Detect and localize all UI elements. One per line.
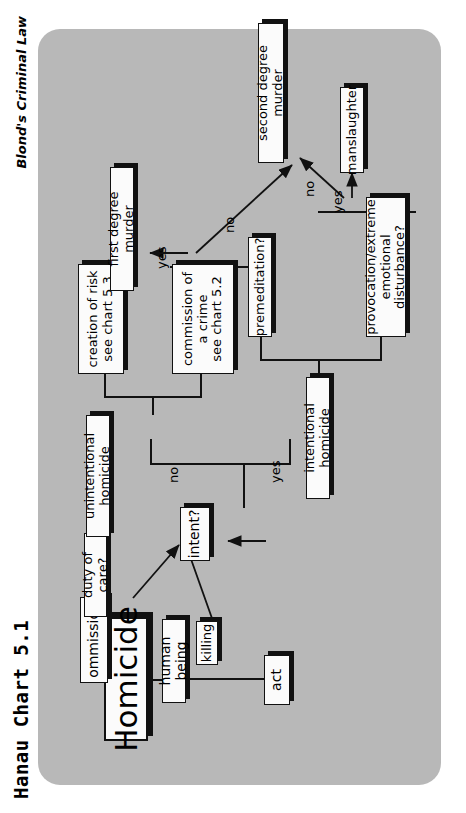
arrow-overlay [0,0,466,813]
node-act[interactable]: act [264,655,290,705]
edge-label-premed-no: no [222,217,237,233]
node-human-being[interactable]: human being [162,619,186,703]
commission-line3: see chart 5.2 [210,276,225,362]
commission-line1: commission of [181,272,196,366]
commission-line2: a crime [196,295,211,344]
node-unintentional-homicide[interactable]: unintentional homicide [86,415,110,537]
node-intentional-homicide[interactable]: intentional homicide [306,377,330,499]
arrow-ommission-to-intent [133,545,179,598]
edge-label-intent-no: no [166,467,181,483]
node-provocation[interactable]: provocation/extreme emotional disturbanc… [366,197,406,337]
provocation-line1: provocation/extreme [364,199,379,335]
edge-label-premed-yes: yes [154,247,169,269]
edge-label-provocation-no: no [302,181,317,197]
node-homicide-title[interactable]: Homicide [104,617,148,741]
edge-label-provocation-yes: yes [330,191,345,213]
node-intent[interactable]: intent? [180,507,210,561]
node-first-degree-murder[interactable]: first degree murder [110,167,134,291]
node-second-degree-murder[interactable]: second degree murder [258,23,284,163]
chart-canvas: Hanau Chart 5.1 Blond's Criminal Law [0,0,466,813]
node-manslaughter[interactable]: manslaughter [340,87,364,173]
node-premeditation[interactable]: premeditation? [248,237,272,337]
node-commission-of-crime[interactable]: commission of a crime see chart 5.2 [172,264,234,374]
provocation-line2: emotional disturbance? [379,202,408,332]
creation-of-risk-line1: creation of risk [86,270,101,367]
node-duty-of-care[interactable]: duty of care? [84,533,107,617]
arrow-premed-no [196,165,292,253]
rotated-chart-wrapper: Hanau Chart 5.1 Blond's Criminal Law [0,0,466,813]
edge-label-intent-yes: yes [268,461,283,483]
node-killing[interactable]: killing [196,621,218,665]
